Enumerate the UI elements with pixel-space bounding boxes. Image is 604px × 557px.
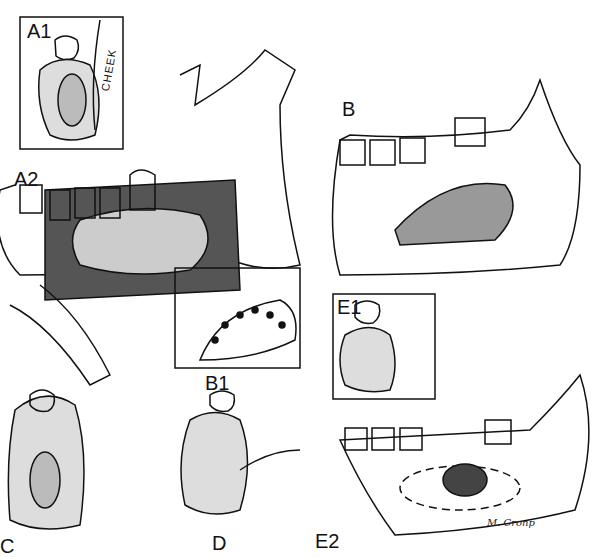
panel-d-cross-section	[181, 391, 300, 514]
panel-c-forceps	[8, 285, 110, 529]
label-a2: A2	[14, 168, 38, 191]
surgical-illustration	[0, 0, 604, 557]
label-b: B	[342, 98, 355, 121]
label-a1: A1	[27, 20, 51, 43]
artist-signature: M. Cronp	[487, 517, 535, 528]
panel-b1-drill	[200, 300, 296, 360]
label-b1: B1	[205, 372, 229, 395]
label-e1: E1	[337, 296, 361, 319]
label-c: C	[0, 535, 14, 557]
label-e2: E2	[315, 530, 339, 553]
panel-b-mandible	[333, 80, 581, 275]
label-d: D	[212, 532, 226, 555]
